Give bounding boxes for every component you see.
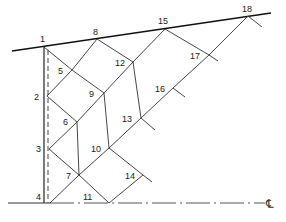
- characteristic-line-16-16e: [173, 88, 185, 97]
- characteristic-line-15-17: [165, 29, 209, 55]
- node-labels: 123456789101112131415161718: [34, 4, 252, 202]
- characteristic-line-4-7: [50, 175, 79, 203]
- characteristic-line-18-18e: [248, 16, 262, 27]
- node-label-7: 7: [66, 171, 71, 181]
- characteristic-line-5-8: [72, 39, 97, 70]
- characteristic-line-14-14e: [143, 175, 152, 182]
- node-label-14: 14: [125, 171, 135, 181]
- node-label-12: 12: [115, 58, 125, 68]
- node-label-8: 8: [93, 27, 98, 37]
- characteristic-line-2-6: [47, 96, 77, 122]
- centerline-symbol: ℄: [265, 197, 274, 211]
- node-label-16: 16: [155, 84, 165, 94]
- characteristic-line-6-7: [77, 122, 79, 175]
- characteristic-line-3-7: [49, 149, 79, 175]
- node-label-3: 3: [36, 144, 41, 154]
- node-label-1: 1: [40, 34, 45, 44]
- node-label-5: 5: [58, 66, 63, 76]
- characteristic-net-diagram: ℄ 123456789101112131415161718: [0, 0, 286, 222]
- characteristic-line-17-17e: [209, 55, 218, 61]
- node-label-4: 4: [36, 192, 41, 202]
- node-label-6: 6: [63, 117, 68, 127]
- characteristic-line-12-15: [133, 29, 165, 62]
- characteristic-line-5-9: [72, 70, 104, 93]
- node-label-11: 11: [83, 192, 92, 202]
- node-label-9: 9: [89, 89, 94, 99]
- node-label-2: 2: [34, 92, 39, 102]
- node-label-18: 18: [242, 4, 252, 14]
- characteristic-line-9-10: [104, 93, 109, 148]
- characteristic-line-13-13e: [141, 118, 155, 130]
- characteristic-line-12-13: [133, 62, 141, 118]
- node-label-15: 15: [158, 16, 168, 26]
- node-label-17: 17: [190, 51, 200, 61]
- characteristic-lines: [44, 16, 262, 203]
- node-label-10: 10: [91, 144, 101, 154]
- node-label-13: 13: [122, 114, 132, 124]
